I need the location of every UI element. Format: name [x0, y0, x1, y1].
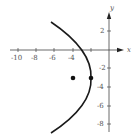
- x-tick-label: -8: [31, 54, 38, 62]
- y-tick-label: -2: [99, 64, 106, 72]
- y-tick-label: -4: [97, 83, 104, 91]
- y-tick-label: 2: [100, 27, 104, 35]
- x-tick-label: -4: [68, 54, 75, 62]
- y-tick-label: -8: [97, 120, 104, 128]
- focus-point: [71, 76, 76, 81]
- x-axis-label: x: [127, 46, 131, 54]
- x-axis-arrow-icon: [117, 48, 124, 52]
- y-axis-arrow-icon: [107, 12, 111, 19]
- x-tick-label: -10: [11, 54, 22, 62]
- vertex-point: [89, 76, 94, 81]
- y-axis-label: y: [109, 4, 115, 12]
- y-tick-label: -6: [97, 102, 104, 110]
- x-tick-label: -6: [49, 54, 56, 62]
- chart: x y -10 -8 -6 -4 2 -2 -4 -6 -8: [0, 0, 135, 140]
